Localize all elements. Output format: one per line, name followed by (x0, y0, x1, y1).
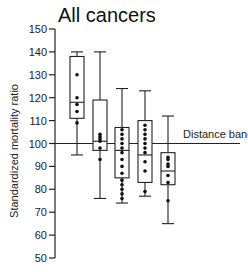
data-point (120, 142, 124, 146)
data-point (98, 158, 102, 162)
data-point (143, 151, 147, 155)
y-tick-label: 60 (35, 229, 47, 241)
data-point (120, 151, 124, 155)
y-tick-label: 50 (35, 252, 47, 264)
data-point (75, 96, 79, 100)
box-plot: 5060708090100110120130140150 (0, 0, 248, 272)
y-tick-label: 120 (29, 92, 47, 104)
data-point (143, 146, 147, 150)
data-point (120, 192, 124, 196)
data-point (120, 158, 124, 162)
data-point (143, 160, 147, 164)
data-point (143, 137, 147, 141)
data-point (75, 121, 79, 125)
data-point (166, 199, 170, 203)
data-point (120, 171, 124, 175)
data-point (120, 178, 124, 182)
box (70, 56, 84, 118)
data-point (120, 197, 124, 201)
y-tick-label: 90 (35, 160, 47, 172)
data-point (143, 169, 147, 173)
data-point (166, 165, 170, 169)
data-point (143, 133, 147, 137)
y-tick-label: 110 (29, 115, 47, 127)
y-tick-label: 150 (29, 23, 47, 35)
data-point (120, 188, 124, 192)
data-point (75, 103, 79, 107)
data-point (143, 128, 147, 132)
data-point (120, 128, 124, 132)
y-tick-label: 70 (35, 206, 47, 218)
data-point (166, 181, 170, 185)
data-point (120, 165, 124, 169)
y-tick-label: 130 (29, 69, 47, 81)
data-point (143, 190, 147, 194)
data-point (120, 133, 124, 137)
data-point (143, 123, 147, 127)
data-point (120, 137, 124, 141)
y-tick-label: 100 (29, 138, 47, 150)
y-tick-label: 140 (29, 46, 47, 58)
data-point (75, 110, 79, 114)
data-point (120, 183, 124, 187)
data-point (166, 158, 170, 162)
data-point (98, 146, 102, 150)
data-point (143, 142, 147, 146)
data-point (120, 146, 124, 150)
y-tick-label: 80 (35, 183, 47, 195)
data-point (166, 174, 170, 178)
data-point (75, 73, 79, 77)
data-point (98, 139, 102, 143)
